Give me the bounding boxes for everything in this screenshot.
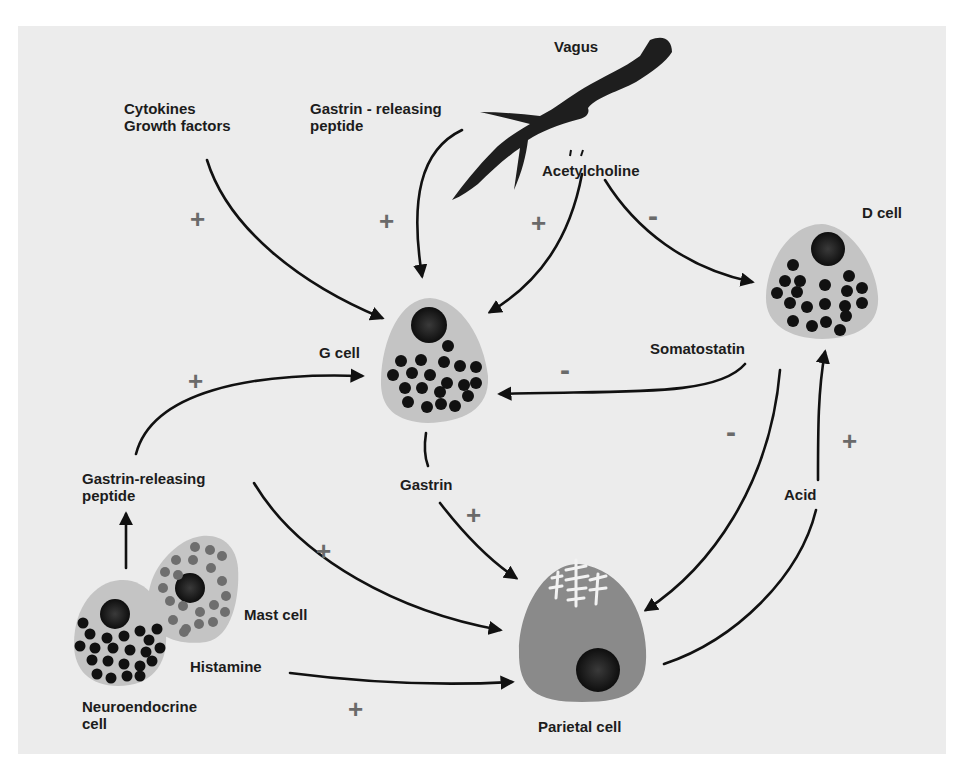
granule [395, 355, 407, 367]
label-neuroendocrine: Neuroendocrine [82, 698, 197, 715]
granule [784, 297, 796, 309]
granule [188, 555, 198, 565]
granule [119, 659, 130, 670]
granule [217, 576, 227, 586]
granule [92, 669, 103, 680]
granule [424, 369, 436, 381]
granule [195, 607, 205, 617]
granule [806, 320, 818, 332]
granule [144, 635, 155, 646]
label-grp-top: Gastrin - releasing [310, 100, 442, 117]
label-mast-cell: Mast cell [244, 606, 307, 623]
granule [205, 545, 215, 555]
granule [125, 645, 136, 656]
granule [85, 629, 96, 640]
granule [221, 591, 231, 601]
label-acid: Acid [784, 486, 817, 503]
granule [106, 673, 117, 684]
granule [217, 551, 227, 561]
sign-grp-to-gcell: + [379, 206, 394, 236]
granule [856, 297, 868, 309]
granule [840, 310, 852, 322]
granule [421, 401, 433, 413]
granule [135, 671, 146, 682]
granule [168, 615, 178, 625]
granule [90, 643, 101, 654]
label-d-cell: D cell [862, 204, 902, 221]
label-cytokines: Cytokines [124, 100, 196, 117]
label-grp-left-peptide: peptide [82, 487, 135, 504]
granule [178, 601, 188, 611]
granule [406, 367, 418, 379]
granule [220, 607, 230, 617]
granule [771, 287, 783, 299]
granule [449, 400, 461, 412]
granule [152, 624, 163, 635]
label-g-cell: G cell [319, 344, 360, 361]
granule [75, 641, 86, 652]
granule [787, 315, 799, 327]
granule [454, 360, 466, 372]
sign-somatostatin-to-parietal: - [726, 415, 736, 448]
granule [141, 647, 152, 658]
granule [416, 382, 428, 394]
granule [819, 298, 831, 310]
granule [470, 361, 482, 373]
granule [399, 382, 411, 394]
granule [155, 643, 166, 654]
label-parietal-cell: Parietal cell [538, 718, 621, 735]
label-somatostatin: Somatostatin [650, 340, 745, 357]
granule [103, 656, 114, 667]
granule [87, 655, 98, 666]
granule [208, 617, 218, 627]
label-gastrin: Gastrin [400, 476, 453, 493]
granule [160, 567, 170, 577]
sign-ach-to-gcell: + [531, 208, 546, 238]
granule [794, 275, 806, 287]
granule [856, 282, 868, 294]
granule [402, 396, 414, 408]
granule [820, 316, 832, 328]
granule [415, 354, 427, 366]
granule [843, 270, 855, 282]
granule [791, 286, 803, 298]
granule [462, 390, 474, 402]
sign-acid-to-dcell: + [842, 426, 857, 456]
granule [209, 600, 219, 610]
sign-ach-to-dcell: - [648, 199, 658, 232]
granule [787, 259, 799, 271]
granule [834, 324, 846, 336]
granule [470, 377, 482, 389]
granule [819, 279, 831, 291]
granule [171, 555, 181, 565]
granule [458, 379, 470, 391]
granule [119, 631, 130, 642]
granule [841, 285, 853, 297]
granule [435, 398, 447, 410]
granule [779, 275, 791, 287]
granule [801, 301, 813, 313]
label-histamine: Histamine [190, 658, 262, 675]
neuroendocrine-cell-nucleus [100, 599, 130, 629]
g-cell-nucleus [411, 307, 447, 343]
sign-somatostatin-to-gcell: - [560, 353, 570, 386]
granule [179, 627, 189, 637]
granule [438, 356, 450, 368]
granule [173, 570, 183, 580]
granule [122, 671, 133, 682]
sign-grp-left-to-gcell: + [188, 366, 203, 396]
sign-cytokines-to-gcell: + [190, 204, 205, 234]
granule [135, 626, 146, 637]
granule [165, 596, 175, 606]
label-vagus: Vagus [554, 38, 598, 55]
sign-gastrin-to-parietal: + [466, 500, 481, 530]
granule [190, 542, 200, 552]
parietal-cell-nucleus [576, 648, 620, 692]
label-acetylcholine: Acetylcholine [542, 162, 640, 179]
granule [194, 619, 204, 629]
granule [102, 633, 113, 644]
granule [135, 661, 146, 672]
granule [78, 618, 89, 629]
label-neuroendocrine-cell: cell [82, 715, 107, 732]
sign-histamine-to-parietal: + [348, 694, 363, 724]
